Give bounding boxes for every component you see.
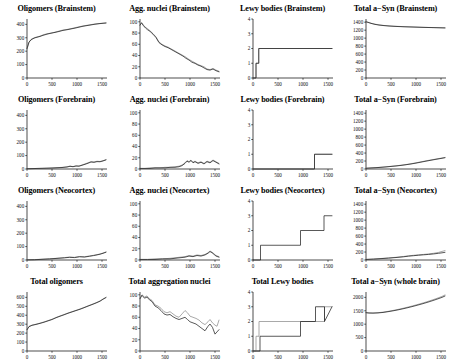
svg-text:500: 500 bbox=[387, 81, 395, 87]
svg-text:100: 100 bbox=[17, 61, 25, 67]
svg-text:0: 0 bbox=[139, 354, 142, 360]
panel-title: Total a−Syn (whole brain) bbox=[339, 277, 452, 286]
plot-area: 0100200300400050010001500 bbox=[0, 105, 113, 182]
chart-panel: Total a−Syn (Neocortex)02004006008001000… bbox=[339, 182, 452, 273]
series-line bbox=[366, 157, 445, 168]
chart-panel: Agg. nuclei (Forebrain)02040608010005001… bbox=[113, 91, 226, 182]
svg-text:1500: 1500 bbox=[323, 263, 334, 269]
svg-text:80: 80 bbox=[132, 303, 138, 309]
svg-text:0: 0 bbox=[22, 348, 25, 354]
svg-text:40: 40 bbox=[132, 143, 138, 149]
chart-panel: Total Lewy bodies01234050010001500 bbox=[226, 273, 339, 364]
svg-text:400: 400 bbox=[356, 150, 364, 156]
svg-text:500: 500 bbox=[48, 354, 56, 360]
svg-text:3: 3 bbox=[248, 122, 251, 128]
svg-text:1500: 1500 bbox=[436, 172, 447, 178]
panel-title: Total Lewy bodies bbox=[226, 277, 339, 286]
panel-title: Lewy bodies (Forebrain) bbox=[226, 95, 339, 104]
svg-text:100: 100 bbox=[17, 243, 25, 249]
plot-area: 0100200300400050010001500 bbox=[0, 196, 113, 273]
svg-text:1000: 1000 bbox=[353, 126, 364, 132]
series-line bbox=[253, 154, 332, 169]
svg-text:0: 0 bbox=[361, 75, 364, 81]
svg-text:1200: 1200 bbox=[353, 118, 364, 124]
svg-text:3: 3 bbox=[248, 213, 251, 219]
series-line bbox=[253, 307, 332, 351]
svg-text:800: 800 bbox=[356, 134, 364, 140]
series-line bbox=[27, 252, 106, 260]
svg-text:20: 20 bbox=[132, 64, 138, 70]
svg-text:1500: 1500 bbox=[353, 308, 364, 314]
svg-text:1000: 1000 bbox=[72, 263, 83, 269]
svg-text:1: 1 bbox=[248, 242, 251, 248]
svg-text:1000: 1000 bbox=[353, 321, 364, 327]
svg-text:1200: 1200 bbox=[353, 27, 364, 33]
svg-text:1500: 1500 bbox=[323, 81, 334, 87]
svg-text:200: 200 bbox=[356, 67, 364, 73]
series-line bbox=[140, 161, 219, 169]
panel-title: Agg. nuclei (Forebrain) bbox=[113, 95, 226, 104]
plot-area: 01234050010001500 bbox=[226, 196, 339, 273]
svg-text:1000: 1000 bbox=[185, 354, 196, 360]
plot-area: 0200400600800100012001400050010001500 bbox=[339, 14, 452, 91]
series-line bbox=[27, 23, 106, 49]
svg-text:0: 0 bbox=[26, 81, 29, 87]
svg-text:60: 60 bbox=[132, 314, 138, 320]
svg-text:500: 500 bbox=[274, 172, 282, 178]
svg-text:0: 0 bbox=[139, 81, 142, 87]
panel-title: Oligomers (Neocortex) bbox=[0, 186, 113, 195]
series-line bbox=[253, 49, 332, 79]
svg-text:2: 2 bbox=[248, 45, 251, 51]
svg-text:1000: 1000 bbox=[298, 172, 309, 178]
plot-area: 0200400600800100012001400050010001500 bbox=[339, 196, 452, 273]
svg-text:0: 0 bbox=[135, 75, 138, 81]
svg-text:0: 0 bbox=[365, 263, 368, 269]
svg-text:400: 400 bbox=[17, 312, 25, 318]
chart-panel: Total a−Syn (Forebrain)02004006008001000… bbox=[339, 91, 452, 182]
svg-text:60: 60 bbox=[132, 41, 138, 47]
plot-area: 020406080100050010001500 bbox=[113, 287, 226, 364]
svg-text:1400: 1400 bbox=[353, 201, 364, 207]
svg-text:0: 0 bbox=[361, 257, 364, 263]
svg-text:60: 60 bbox=[132, 132, 138, 138]
panel-title: Agg. nuclei (Brainstem) bbox=[113, 4, 226, 13]
chart-panel: Total a−Syn (Brainstem)02004006008001000… bbox=[339, 0, 452, 91]
svg-text:500: 500 bbox=[161, 172, 169, 178]
svg-text:0: 0 bbox=[252, 263, 255, 269]
svg-text:1500: 1500 bbox=[436, 354, 447, 360]
svg-text:1500: 1500 bbox=[210, 263, 221, 269]
panel-title: Total a−Syn (Neocortex) bbox=[339, 186, 452, 195]
svg-text:3: 3 bbox=[248, 31, 251, 37]
svg-text:200: 200 bbox=[17, 139, 25, 145]
svg-text:400: 400 bbox=[17, 112, 25, 118]
svg-text:2: 2 bbox=[248, 318, 251, 324]
svg-text:1500: 1500 bbox=[97, 263, 108, 269]
svg-text:4: 4 bbox=[248, 16, 251, 22]
svg-text:200: 200 bbox=[17, 48, 25, 54]
svg-text:80: 80 bbox=[132, 212, 138, 218]
svg-text:1000: 1000 bbox=[72, 354, 83, 360]
svg-text:500: 500 bbox=[274, 263, 282, 269]
svg-text:0: 0 bbox=[22, 257, 25, 263]
svg-text:20: 20 bbox=[132, 337, 138, 343]
svg-text:500: 500 bbox=[274, 354, 282, 360]
svg-text:0: 0 bbox=[248, 166, 251, 172]
plot-area: 020406080100050010001500 bbox=[113, 14, 226, 91]
svg-text:4: 4 bbox=[248, 107, 251, 113]
svg-text:1000: 1000 bbox=[353, 35, 364, 41]
svg-text:500: 500 bbox=[48, 81, 56, 87]
svg-text:1000: 1000 bbox=[185, 81, 196, 87]
svg-text:0: 0 bbox=[248, 348, 251, 354]
svg-text:500: 500 bbox=[48, 172, 56, 178]
svg-text:0: 0 bbox=[361, 348, 364, 354]
svg-text:200: 200 bbox=[17, 230, 25, 236]
svg-text:20: 20 bbox=[132, 246, 138, 252]
svg-text:200: 200 bbox=[17, 330, 25, 336]
svg-text:600: 600 bbox=[356, 51, 364, 57]
svg-text:0: 0 bbox=[26, 172, 29, 178]
svg-text:1: 1 bbox=[248, 60, 251, 66]
panel-title: Total oligomers bbox=[0, 277, 113, 286]
panel-title: Agg. nuclei (Neocortex) bbox=[113, 186, 226, 195]
svg-text:100: 100 bbox=[130, 110, 138, 116]
svg-text:500: 500 bbox=[161, 81, 169, 87]
